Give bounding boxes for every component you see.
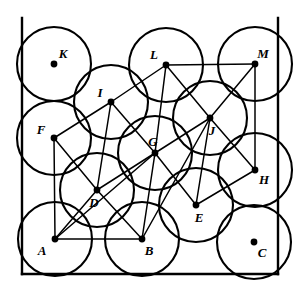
chord-EG [155, 153, 196, 205]
chord-LM [166, 64, 255, 65]
center-dot-A [52, 236, 59, 243]
center-dot-I [108, 99, 115, 106]
chord-JL [166, 65, 210, 118]
point-label-B: B [144, 243, 154, 258]
chord-DI [97, 102, 111, 190]
chord-DG [97, 153, 155, 190]
center-dot-K [51, 61, 58, 68]
center-dot-C [251, 239, 258, 246]
center-dot-B [139, 236, 146, 243]
center-dot-M [252, 61, 259, 68]
point-label-K: K [58, 46, 69, 61]
center-dot-G [152, 150, 159, 157]
chord-GJ [155, 118, 210, 153]
point-label-A: A [37, 243, 47, 258]
chord-IL [111, 65, 166, 102]
point-label-H: H [258, 172, 270, 187]
circle-packing-figure: ABCDEFGHIJKLM [0, 0, 302, 295]
chord-EH [196, 170, 255, 205]
chord-BD [97, 190, 142, 239]
center-dot-E [193, 202, 200, 209]
point-label-I: I [96, 85, 103, 100]
figure-canvas: ABCDEFGHIJKLM [0, 0, 302, 295]
center-dot-D [94, 187, 101, 194]
chord-AF [54, 138, 55, 239]
center-dot-J [207, 115, 214, 122]
point-label-M: M [256, 46, 269, 61]
point-label-L: L [149, 47, 158, 62]
point-label-E: E [194, 210, 204, 225]
center-dot-L [163, 62, 170, 69]
chord-FI [54, 102, 111, 138]
point-label-D: D [88, 195, 99, 210]
point-label-C: C [258, 245, 267, 260]
point-label-F: F [36, 122, 46, 137]
point-label-G: G [148, 134, 158, 149]
point-label-J: J [208, 123, 216, 138]
center-dot-H [252, 167, 259, 174]
chord-JM [210, 64, 255, 118]
chord-HJ [210, 118, 255, 170]
center-dot-F [51, 135, 58, 142]
